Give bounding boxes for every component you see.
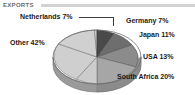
header-divider-rule xyxy=(41,4,195,7)
exports-pie-chart-figure: EXPORTS xyxy=(0,0,195,95)
figure-header-title: EXPORTS xyxy=(3,1,34,9)
netherlands-leader-line-drop xyxy=(113,17,114,26)
pie-label-netherlands: Netherlands 7% xyxy=(20,13,73,21)
pie-label-usa: USA 13% xyxy=(143,53,173,61)
pie-label-south-africa: South Africa 20% xyxy=(117,73,174,81)
pie-label-japan: Japan 11% xyxy=(139,31,175,39)
netherlands-leader-line xyxy=(79,17,114,18)
pie-label-germany: Germany 7% xyxy=(126,17,168,25)
pie-chart-area: Netherlands 7% Germany 7% Japan 11% USA … xyxy=(0,9,195,95)
pie-label-other: Other 42% xyxy=(10,39,45,47)
